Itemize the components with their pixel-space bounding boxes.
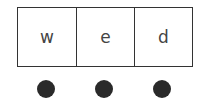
letter-box-1: w xyxy=(18,8,76,66)
letter-boxes: w e d xyxy=(17,7,193,67)
dot-row xyxy=(17,80,191,98)
letter-box-2: e xyxy=(76,8,134,66)
dot-icon xyxy=(37,80,55,98)
letter-box-3: d xyxy=(134,8,192,66)
dot-icon xyxy=(95,80,113,98)
dot-icon xyxy=(153,80,171,98)
